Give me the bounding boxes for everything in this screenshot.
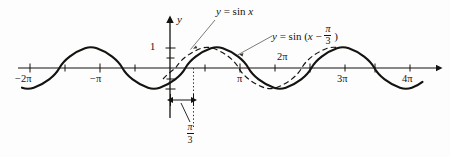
phase-shift-denominator: 3 (182, 134, 198, 145)
phase-shift-label: π 3 (182, 122, 198, 145)
x-tick-label-4pi: 4π (402, 74, 413, 85)
y-axis-label: y (177, 14, 182, 25)
sine-graph-figure: y 1 −2π −π π 2π 3π 4π y = sin x y = sin … (0, 0, 450, 157)
plot-canvas (0, 0, 450, 157)
sin-shift-leader-line (238, 36, 273, 55)
curve-label-sin-x-arg: x (248, 5, 253, 17)
curve-label-shift-close-paren: ) (334, 30, 338, 42)
sin-x-leader-line (191, 20, 216, 50)
x-tick-label-pi: π (237, 74, 242, 85)
phase-shift-numerator: π (182, 122, 198, 133)
x-tick-label-neg-2pi: −2π (15, 74, 31, 85)
x-tick-label-neg-pi: −π (90, 74, 101, 85)
y-tick-label-1: 1 (150, 42, 155, 53)
x-tick-label-2pi: 2π (277, 52, 288, 63)
curve-label-sin-x-fn: sin (233, 5, 246, 17)
x-tick-label-3pi: 3π (337, 74, 348, 85)
bracket-leader-line (181, 103, 190, 122)
curve-label-sin-x-minus-pi-3: y = sin (x − π3 ) (272, 24, 338, 46)
curve-label-sin-x: y = sin x (216, 6, 253, 17)
curve-label-shift-fn: sin ( (289, 30, 308, 42)
